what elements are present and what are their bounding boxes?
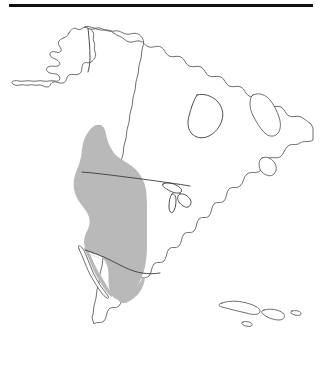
north-america-map: [0, 0, 323, 391]
range-map-figure: [0, 0, 323, 391]
